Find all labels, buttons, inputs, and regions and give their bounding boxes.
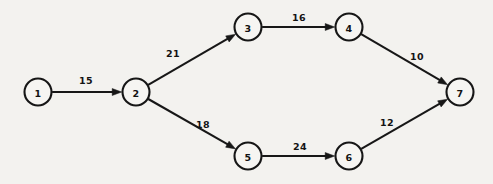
node-label-6: 6 <box>346 151 353 162</box>
edge-weight-3-to-4: 16 <box>292 12 306 23</box>
node-label-2: 2 <box>133 87 140 98</box>
node-label-7: 7 <box>457 87 464 98</box>
edge-weight-6-to-7: 12 <box>380 117 394 128</box>
arrowhead-5-to-6 <box>325 153 335 160</box>
node-label-4: 4 <box>346 22 353 33</box>
edge-weight-2-to-5: 18 <box>196 119 210 130</box>
arrowhead-2-to-5 <box>226 141 236 149</box>
node-label-3: 3 <box>245 22 252 33</box>
node-label-5: 5 <box>245 151 252 162</box>
edge-weight-2-to-3: 21 <box>166 48 180 59</box>
edge-weight-1-to-2: 15 <box>79 75 93 86</box>
edge-line-2-to-3 <box>148 38 229 85</box>
arrowhead-1-to-2 <box>112 89 122 96</box>
edge-weight-5-to-6: 24 <box>293 141 307 152</box>
edge-weight-4-to-7: 10 <box>410 51 424 62</box>
arrowhead-6-to-7 <box>438 99 448 107</box>
arrowhead-4-to-7 <box>438 77 448 85</box>
network-diagram: 152118161024121234567 <box>0 0 493 184</box>
node-label-1: 1 <box>35 87 42 98</box>
arrowhead-2-to-3 <box>226 34 236 42</box>
arrowhead-3-to-4 <box>325 24 335 31</box>
edge-line-6-to-7 <box>361 103 441 149</box>
edge-line-4-to-7 <box>361 34 441 81</box>
edge-line-2-to-5 <box>148 99 229 145</box>
